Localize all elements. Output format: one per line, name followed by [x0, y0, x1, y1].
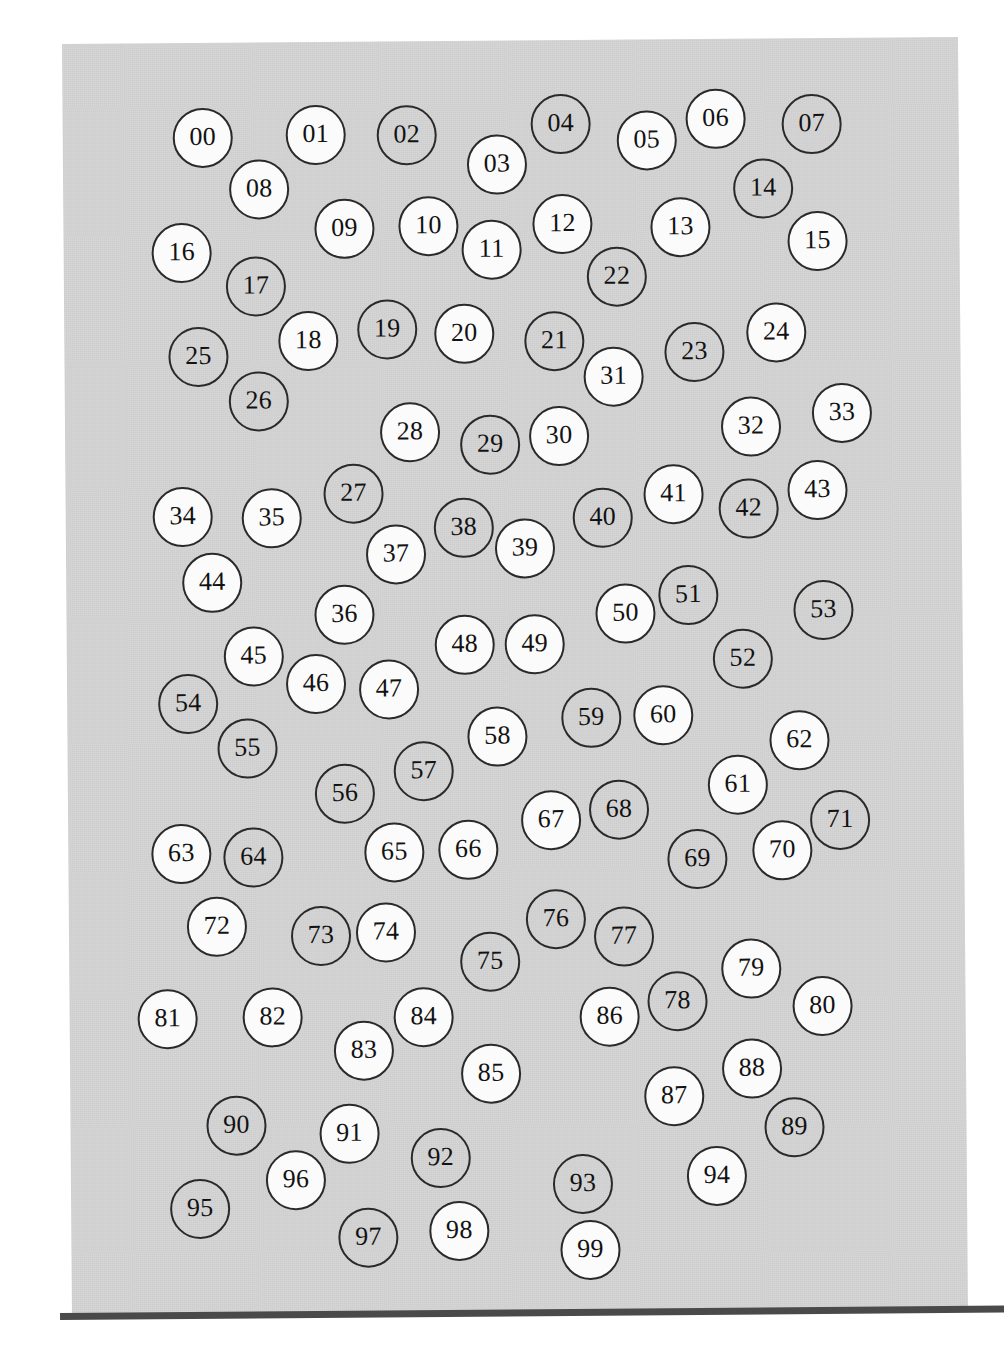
numbered-circle[interactable]: 88	[722, 1038, 782, 1098]
numbered-circle[interactable]: 47	[359, 659, 419, 719]
numbered-circle[interactable]: 90	[206, 1095, 266, 1155]
numbered-circle[interactable]: 29	[460, 414, 520, 474]
numbered-circle[interactable]: 56	[315, 764, 375, 824]
numbered-circle[interactable]: 71	[810, 790, 870, 850]
numbered-circle[interactable]: 55	[217, 718, 277, 778]
numbered-circle[interactable]: 15	[787, 211, 847, 271]
numbered-circle[interactable]: 98	[429, 1201, 489, 1261]
numbered-circle[interactable]: 78	[647, 971, 707, 1031]
numbered-circle[interactable]: 59	[561, 688, 621, 748]
numbered-circle[interactable]: 65	[364, 822, 424, 882]
numbered-circle[interactable]: 46	[286, 654, 346, 714]
numbered-circle[interactable]: 92	[411, 1128, 471, 1188]
numbered-circle[interactable]: 63	[151, 824, 211, 884]
numbered-circle[interactable]: 01	[285, 105, 345, 165]
numbered-circle[interactable]: 48	[434, 615, 494, 675]
numbered-circle[interactable]: 82	[242, 987, 302, 1047]
numbered-circle[interactable]: 31	[583, 346, 643, 406]
numbered-circle[interactable]: 23	[664, 322, 724, 382]
numbered-circle[interactable]: 69	[667, 829, 727, 889]
numbered-circle[interactable]: 79	[721, 938, 781, 998]
numbered-circle[interactable]: 67	[521, 790, 581, 850]
numbered-circle[interactable]: 12	[532, 194, 592, 254]
numbered-circle[interactable]: 06	[685, 89, 745, 149]
numbered-circle[interactable]: 77	[594, 906, 654, 966]
numbered-circle[interactable]: 70	[752, 820, 812, 880]
numbered-circle[interactable]: 00	[173, 108, 233, 168]
numbered-circle[interactable]: 51	[658, 565, 718, 625]
numbered-circle[interactable]: 33	[812, 383, 872, 443]
numbered-circle[interactable]: 27	[323, 463, 383, 523]
numbered-circle[interactable]: 81	[137, 989, 197, 1049]
numbered-circle[interactable]: 07	[781, 94, 841, 154]
numbered-circle[interactable]: 41	[643, 464, 703, 524]
numbered-circle[interactable]: 25	[168, 327, 228, 387]
numbered-circle[interactable]: 53	[793, 580, 853, 640]
numbered-circle[interactable]: 62	[769, 710, 829, 770]
numbered-circle[interactable]: 10	[398, 196, 458, 256]
numbered-circle[interactable]: 89	[764, 1097, 824, 1157]
numbered-circle[interactable]: 74	[356, 902, 416, 962]
numbered-circle[interactable]: 60	[633, 685, 693, 745]
numbered-circle[interactable]: 08	[229, 159, 289, 219]
numbered-circle[interactable]: 02	[376, 105, 436, 165]
numbered-circle[interactable]: 95	[170, 1179, 230, 1239]
numbered-circle[interactable]: 85	[461, 1043, 521, 1103]
numbered-circle[interactable]: 36	[314, 585, 374, 645]
numbered-circle[interactable]: 21	[524, 311, 584, 371]
numbered-circle[interactable]: 05	[617, 110, 677, 170]
numbered-circle[interactable]: 26	[229, 371, 289, 431]
numbered-circle[interactable]: 09	[314, 199, 374, 259]
numbered-circle[interactable]: 24	[746, 302, 806, 362]
numbered-circle[interactable]: 83	[334, 1020, 394, 1080]
numbered-circle[interactable]: 19	[357, 299, 417, 359]
numbered-circle[interactable]: 17	[226, 256, 286, 316]
numbered-circle[interactable]: 22	[587, 246, 647, 306]
numbered-circle[interactable]: 93	[553, 1154, 613, 1214]
numbered-circle[interactable]: 96	[266, 1150, 326, 1210]
numbered-circle[interactable]: 52	[713, 628, 773, 688]
numbered-circle[interactable]: 40	[573, 488, 633, 548]
numbered-circle[interactable]: 39	[495, 518, 555, 578]
numbered-circle[interactable]: 99	[560, 1220, 620, 1280]
numbered-circle[interactable]: 76	[526, 889, 586, 949]
numbered-circle[interactable]: 37	[366, 524, 426, 584]
numbered-circle[interactable]: 20	[434, 304, 494, 364]
numbered-circle[interactable]: 80	[792, 976, 852, 1036]
numbered-circle[interactable]: 14	[733, 158, 793, 218]
numbered-circle[interactable]: 61	[708, 754, 768, 814]
numbered-circle[interactable]: 30	[529, 406, 589, 466]
numbered-circle[interactable]: 68	[589, 779, 649, 839]
numbered-circle[interactable]: 94	[687, 1146, 747, 1206]
numbered-circle[interactable]: 57	[393, 741, 453, 801]
numbered-circle[interactable]: 03	[467, 134, 527, 194]
numbered-circle[interactable]: 72	[187, 897, 247, 957]
numbered-circle[interactable]: 04	[530, 94, 590, 154]
numbered-circle[interactable]: 44	[182, 553, 242, 613]
numbered-circle[interactable]: 35	[241, 488, 301, 548]
numbered-circle[interactable]: 16	[151, 223, 211, 283]
numbered-circle[interactable]: 28	[380, 402, 440, 462]
numbered-circle[interactable]: 97	[338, 1207, 398, 1267]
numbered-circle[interactable]: 11	[461, 219, 521, 279]
numbered-circle[interactable]: 87	[644, 1066, 704, 1126]
numbered-circle[interactable]: 42	[718, 478, 778, 538]
numbered-circle[interactable]: 84	[393, 987, 453, 1047]
numbered-circle[interactable]: 75	[460, 931, 520, 991]
numbered-circle[interactable]: 66	[438, 820, 498, 880]
numbered-circle[interactable]: 38	[434, 498, 494, 558]
numbered-circle[interactable]: 73	[291, 906, 351, 966]
numbered-circle[interactable]: 58	[467, 706, 527, 766]
numbered-circle[interactable]: 50	[595, 583, 655, 643]
numbered-circle[interactable]: 43	[787, 460, 847, 520]
numbered-circle[interactable]: 86	[579, 986, 639, 1046]
numbered-circle[interactable]: 13	[650, 197, 710, 257]
numbered-circle[interactable]: 18	[278, 311, 338, 371]
numbered-circle[interactable]: 64	[223, 827, 283, 887]
numbered-circle[interactable]: 45	[224, 626, 284, 686]
numbered-circle[interactable]: 91	[319, 1104, 379, 1164]
numbered-circle[interactable]: 34	[152, 487, 212, 547]
numbered-circle[interactable]: 54	[158, 674, 218, 734]
numbered-circle[interactable]: 49	[504, 614, 564, 674]
numbered-circle[interactable]: 32	[721, 396, 781, 456]
